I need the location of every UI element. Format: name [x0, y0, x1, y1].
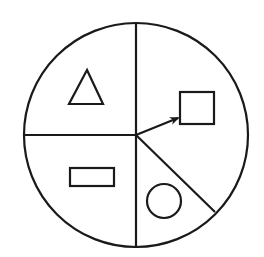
rectangle-shape	[70, 168, 114, 186]
small-circle-shape	[147, 184, 181, 218]
diagram-canvas	[0, 0, 264, 257]
triangle-shape	[69, 70, 103, 104]
arrow-to-square	[136, 118, 178, 135]
divided-circle-diagram	[0, 0, 264, 257]
square-shape	[180, 92, 214, 124]
